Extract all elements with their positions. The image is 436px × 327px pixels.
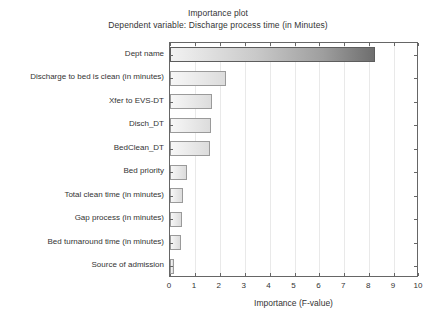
y-axis-tick-mark	[170, 219, 173, 220]
x-tick-label: 7	[333, 281, 353, 290]
y-axis-tick-mark	[414, 196, 417, 197]
y-tick-label: Source of admission	[92, 260, 164, 269]
x-tick-label: 8	[358, 281, 378, 290]
x-axis-title: Importance (F-value)	[169, 298, 418, 308]
y-axis-tick-mark	[170, 149, 173, 150]
chart-subtitle: Dependent variable: Discharge process ti…	[0, 20, 436, 31]
y-tick-label: Xfer to EVS-DT	[109, 96, 164, 105]
y-axis-tick-mark	[170, 125, 173, 126]
y-axis-tick-mark	[414, 149, 417, 150]
x-tick-label: 9	[383, 281, 403, 290]
x-tick-label: 5	[284, 281, 304, 290]
bar-row	[170, 94, 419, 109]
y-tick-label: Bed turnaround time (in minutes)	[48, 237, 165, 246]
x-tick-label: 2	[209, 281, 229, 290]
bar-row	[170, 212, 419, 227]
x-tick-label: 10	[408, 281, 428, 290]
y-axis-tick-mark	[170, 102, 173, 103]
y-axis-tick-mark	[414, 172, 417, 173]
y-tick-label: Discharge to bed is clean (in minutes)	[30, 72, 164, 81]
y-axis-tick-mark	[170, 243, 173, 244]
x-tick-label: 4	[259, 281, 279, 290]
plot-area	[169, 42, 418, 277]
y-axis-tick-mark	[414, 125, 417, 126]
bar-row	[170, 235, 419, 250]
title-block: Importance plot Dependent variable: Disc…	[0, 8, 436, 30]
bar-row	[170, 141, 419, 156]
chart-title: Importance plot	[0, 8, 436, 19]
y-tick-label: Disch_DT	[129, 119, 164, 128]
x-tick-label: 6	[308, 281, 328, 290]
bar-row	[170, 71, 419, 86]
y-axis-tick-mark	[414, 243, 417, 244]
y-tick-label: Bed priority	[124, 166, 164, 175]
y-axis-tick-mark	[414, 266, 417, 267]
bar-row	[170, 118, 419, 133]
y-tick-label: Gap process (in minutes)	[75, 213, 164, 222]
x-axis-tick-mark	[319, 43, 320, 46]
y-axis-tick-mark	[170, 55, 173, 56]
y-tick-label: Total clean time (in minutes)	[64, 190, 164, 199]
bar-row	[170, 47, 419, 62]
y-axis-tick-mark	[170, 172, 173, 173]
y-axis-tick-mark	[170, 266, 173, 267]
bar[interactable]	[170, 118, 211, 133]
x-tick-label: 3	[234, 281, 254, 290]
bar[interactable]	[170, 94, 212, 109]
x-axis-tick-mark	[220, 43, 221, 46]
x-axis-tick-mark	[344, 43, 345, 46]
x-axis-tick-mark	[418, 43, 419, 46]
x-tick-label: 1	[184, 281, 204, 290]
y-axis-tick-mark	[414, 102, 417, 103]
bar-row	[170, 188, 419, 203]
bar[interactable]	[170, 71, 226, 86]
y-axis-tick-mark	[414, 78, 417, 79]
bar-row	[170, 259, 419, 274]
bar[interactable]	[170, 47, 375, 62]
x-axis-tick-mark	[170, 43, 171, 46]
x-axis-tick-mark	[394, 43, 395, 46]
x-tick-label: 0	[159, 281, 179, 290]
y-axis-tick-mark	[170, 78, 173, 79]
x-axis-tick-mark	[295, 43, 296, 46]
x-axis-tick-mark	[195, 43, 196, 46]
y-axis-tick-mark	[414, 219, 417, 220]
bar-row	[170, 165, 419, 180]
x-axis-tick-mark	[245, 43, 246, 46]
y-axis-tick-mark	[170, 196, 173, 197]
x-axis-tick-mark	[270, 43, 271, 46]
importance-plot-figure: Importance plot Dependent variable: Disc…	[0, 0, 436, 327]
y-tick-label: BedClean_DT	[114, 143, 164, 152]
x-axis-tick-mark	[369, 43, 370, 46]
y-axis-tick-mark	[414, 55, 417, 56]
y-tick-label: Dept name	[125, 49, 164, 58]
bar[interactable]	[170, 141, 210, 156]
